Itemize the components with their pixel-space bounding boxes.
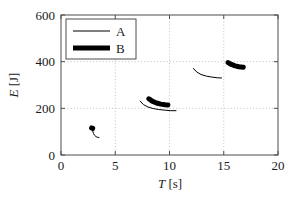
y-tick-label: 600	[36, 8, 56, 23]
y-tick-label: 0	[49, 148, 56, 163]
x-tick-label: 0	[58, 158, 65, 173]
y-axis-title: E [J]	[6, 73, 21, 99]
x-tick-label: 15	[217, 158, 230, 173]
energy-vs-time-chart: 051015200200400600 AB T [s] E [J]	[0, 0, 304, 200]
legend-label-b: B	[116, 41, 125, 56]
x-tick-label: 20	[272, 158, 285, 173]
y-tick-label: 200	[36, 101, 56, 116]
chart-container: 051015200200400600 AB T [s] E [J]	[0, 0, 304, 200]
y-tick-label: 400	[36, 54, 56, 69]
x-axis-title: T [s]	[158, 176, 182, 191]
chart-legend: AB	[66, 19, 136, 59]
legend-label-a: A	[116, 24, 126, 39]
x-tick-label: 5	[112, 158, 119, 173]
x-tick-label: 10	[163, 158, 176, 173]
legend-box	[66, 19, 136, 59]
